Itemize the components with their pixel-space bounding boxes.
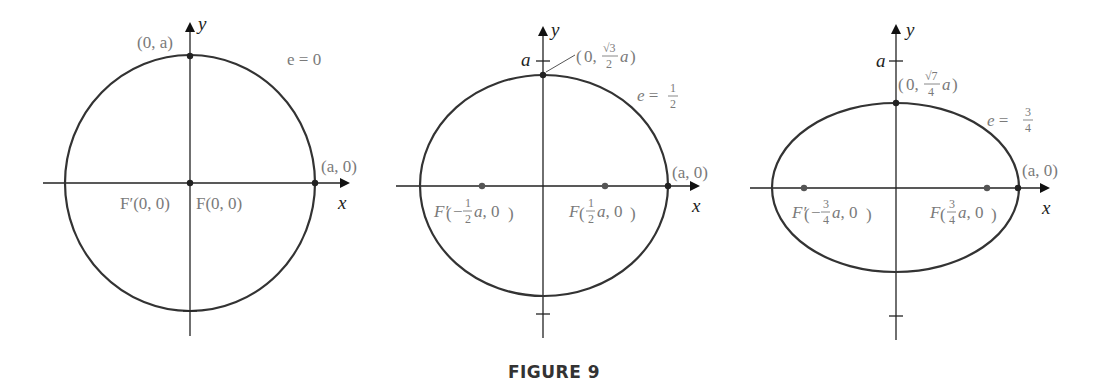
svg-text:(: ( [898,75,904,94]
vertex-right-label: (a, 0) [672,163,708,182]
svg-text:e =: e = [637,86,658,105]
focus-left-point [801,185,807,191]
svg-text:a: a [620,47,629,66]
y-axis-label: y [549,19,560,40]
eccentricity-label: e = 3 4 [987,105,1033,135]
focus-left-point [479,183,485,189]
vertex-right-point [665,183,671,189]
figure-9-ellipses: y x (0, a) e = 0 (a, 0) F′(0, 0) F(0, 0)… [0,0,1108,386]
vertex-top-point [893,100,899,106]
svg-text:a, 0: a, 0 [958,203,984,222]
svg-text:(: ( [804,205,810,224]
svg-text:a: a [942,75,951,94]
panel-e0: y x (0, a) e = 0 (a, 0) F′(0, 0) F(0, 0) [43,13,357,336]
svg-text:0,: 0, [906,75,919,94]
svg-text:): ) [952,75,958,94]
vertex-right-label: (a, 0) [321,157,357,176]
svg-text:(: ( [446,204,452,223]
svg-text:(: ( [940,205,946,224]
svg-text:2: 2 [606,57,612,71]
vertex-top-point [540,72,546,78]
vertex-top-label: (0, a) [137,33,173,52]
y-axis-label: y [196,13,207,34]
vertex-right-point [1015,185,1021,191]
svg-text:4: 4 [949,213,955,227]
focus-right-label: F ( 1 2 a, 0 ) [568,196,636,226]
focus-left-label: F′ ( − 3 4 a, 0 ) [791,197,872,227]
svg-text:a, 0: a, 0 [597,202,623,221]
svg-text:1: 1 [588,196,594,210]
svg-text:e =: e = [987,111,1008,130]
x-axis-label: x [337,192,347,213]
vertex-top-point [187,53,193,59]
svg-text:1: 1 [465,196,471,210]
svg-text:): ) [508,204,514,223]
svg-text:): ) [991,205,997,224]
vertex-top-label: ( 0, √7 4 a ) [898,69,958,99]
vertex-right-point [312,180,318,186]
focus-right-label: F(0, 0) [196,194,242,213]
svg-text:4: 4 [1025,121,1031,135]
svg-text:2: 2 [465,212,471,226]
vertex-right-label: (a, 0) [1022,161,1058,180]
focus-right-point [602,183,608,189]
svg-text:3: 3 [823,197,829,211]
focus-point [187,180,193,186]
svg-text:2: 2 [588,212,594,226]
focus-right-point [984,185,990,191]
svg-text:a, 0: a, 0 [474,202,500,221]
y-axis-label: y [904,19,915,40]
focus-right-label: F ( 3 4 a, 0 ) [929,197,997,227]
vertex-top-label: ( 0, √3 2 a ) [576,41,636,71]
x-axis-label: x [1041,197,1051,218]
svg-text:0,: 0, [584,47,597,66]
leader-line [546,55,575,72]
figure-caption: FIGURE 9 [0,362,1108,382]
x-axis-label: x [691,195,701,216]
svg-text:(: ( [576,47,582,66]
svg-text:√3: √3 [603,41,616,55]
svg-text:3: 3 [949,197,955,211]
svg-text:): ) [630,204,636,223]
svg-text:√7: √7 [925,69,938,83]
tick-a-label: a [521,49,531,70]
svg-text:4: 4 [928,85,934,99]
svg-text:a, 0: a, 0 [832,203,858,222]
tick-a-label: a [876,50,886,71]
svg-text:−: − [453,202,463,221]
svg-text:): ) [866,205,872,224]
svg-text:−: − [811,203,821,222]
focus-left-label: F′(0, 0) [120,194,170,213]
svg-text:1: 1 [670,81,676,95]
focus-left-label: F′ ( − 1 2 a, 0 ) [433,196,514,226]
svg-text:4: 4 [823,213,829,227]
svg-text:): ) [630,47,636,66]
svg-text:(: ( [579,204,585,223]
eccentricity-label: e = 0 [287,50,321,69]
svg-text:3: 3 [1025,105,1031,119]
panel-e-half: y x a ( 0, √3 2 a ) e = 1 2 (a, 0) F′ ( … [396,19,708,338]
eccentricity-label: e = 1 2 [637,81,678,111]
panel-e-three-quarters: y x a ( 0, √7 4 a ) e = 3 4 (a, 0) F′ ( … [750,19,1058,340]
svg-text:2: 2 [670,97,676,111]
